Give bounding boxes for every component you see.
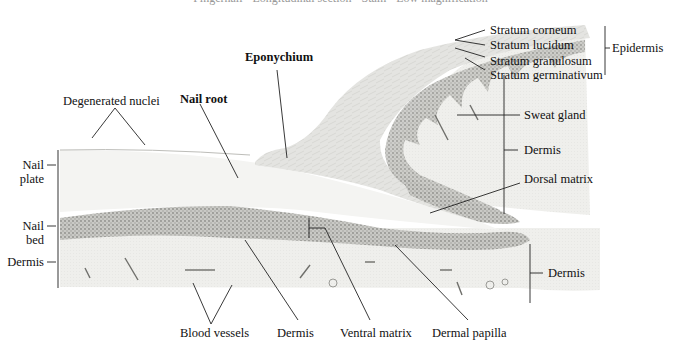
label-stratum-germinativum: Stratum germinativum	[490, 68, 603, 82]
label-blood-vessels: Blood vessels	[180, 326, 249, 340]
label-dermis-left: Dermis	[0, 255, 44, 269]
label-stratum-granulosum: Stratum granulosum	[490, 54, 592, 68]
label-nail-bed-line1: Nail	[10, 219, 44, 233]
nail-section-diagram: Fingernail · Longitudinal section · Stai…	[0, 0, 681, 352]
label-dorsal-matrix: Dorsal matrix	[524, 172, 593, 186]
label-dermis-lower: Dermis	[548, 266, 585, 280]
label-epidermis: Epidermis	[612, 41, 663, 55]
label-sweat-gland: Sweat gland	[524, 108, 585, 122]
label-nail-root: Nail root	[180, 92, 227, 106]
label-dermal-papilla: Dermal papilla	[432, 326, 507, 340]
label-degenerated-nuclei: Degenerated nuclei	[63, 94, 160, 108]
label-nail-plate-line1: Nail	[10, 158, 44, 172]
label-dermis-bottom: Dermis	[277, 326, 314, 340]
label-ventral-matrix: Ventral matrix	[340, 326, 412, 340]
label-eponychium: Eponychium	[245, 50, 313, 64]
label-nail-bed-line2: bed	[10, 233, 44, 247]
label-stratum-corneum: Stratum corneum	[490, 23, 576, 37]
label-nail-plate-line2: plate	[10, 172, 44, 186]
label-stratum-lucidum: Stratum lucidum	[490, 38, 574, 52]
label-dermis-upper: Dermis	[524, 143, 561, 157]
